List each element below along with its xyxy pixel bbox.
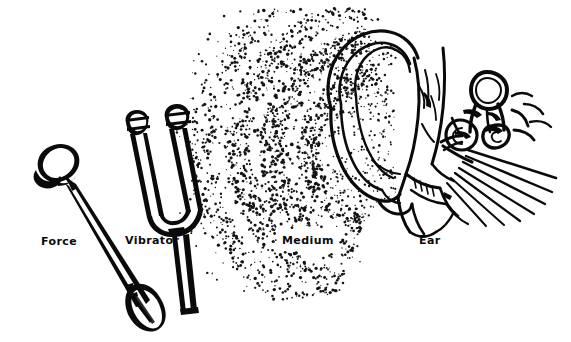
label-force: Force: [41, 236, 77, 247]
label-vibrator: Vibrator: [125, 235, 179, 246]
label-ear: Ear: [419, 235, 441, 246]
sound-transmission-figure: Force Vibrator Medium Ear: [0, 0, 571, 342]
label-medium: Medium: [282, 235, 334, 246]
ear-anatomy-illustration: [0, 0, 571, 342]
